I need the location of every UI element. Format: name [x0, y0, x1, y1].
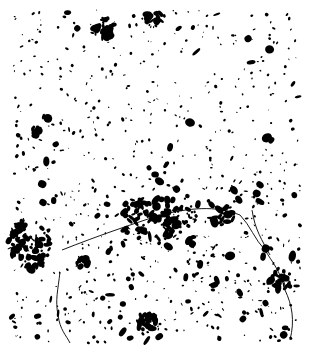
- settlement-map: [0, 0, 313, 358]
- map-canvas: [0, 0, 313, 358]
